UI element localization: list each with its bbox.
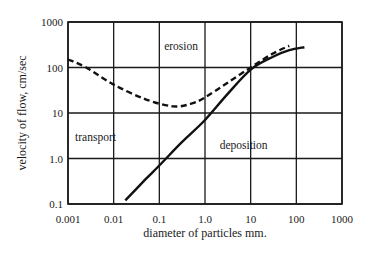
y-axis-label: velocity of flow, cm/sec xyxy=(15,55,29,170)
x-tick-label: 10 xyxy=(245,213,257,225)
x-tick-label: 0.01 xyxy=(104,213,123,225)
y-tick-label: 0.1 xyxy=(49,198,63,210)
x-tick-label: 100 xyxy=(288,213,305,225)
x-tick-label: 0.1 xyxy=(152,213,166,225)
y-tick-label: 1000 xyxy=(41,16,64,28)
erosion-curve-dashed xyxy=(68,46,289,107)
region-label-transport: transport xyxy=(75,131,117,144)
x-tick-label: 1000 xyxy=(331,213,354,225)
deposition-curve-solid xyxy=(125,47,304,200)
y-tick-label: 1.0 xyxy=(49,153,63,165)
x-tick-label: 1.0 xyxy=(198,213,212,225)
region-label-erosion: erosion xyxy=(164,40,198,52)
grid-lines xyxy=(68,22,342,204)
sediment-velocity-chart: 0.0010.010.11.0101001000 0.11.0101001000… xyxy=(0,0,369,263)
x-tick-label: 0.001 xyxy=(56,213,81,225)
y-tick-label: 100 xyxy=(47,62,64,74)
y-tick-labels: 0.11.0101001000 xyxy=(41,16,64,210)
region-labels: erosiontransportdeposition xyxy=(75,40,268,152)
region-label-deposition: deposition xyxy=(220,139,268,152)
y-tick-label: 10 xyxy=(52,107,64,119)
x-axis-label: diameter of particles mm. xyxy=(143,226,266,240)
x-tick-labels: 0.0010.010.11.0101001000 xyxy=(56,213,354,225)
